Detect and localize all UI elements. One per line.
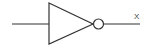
inversion-bubble [94,19,104,29]
output-label: X [134,12,140,21]
not-gate-triangle [49,3,93,44]
not-gate-diagram: X [0,0,149,49]
